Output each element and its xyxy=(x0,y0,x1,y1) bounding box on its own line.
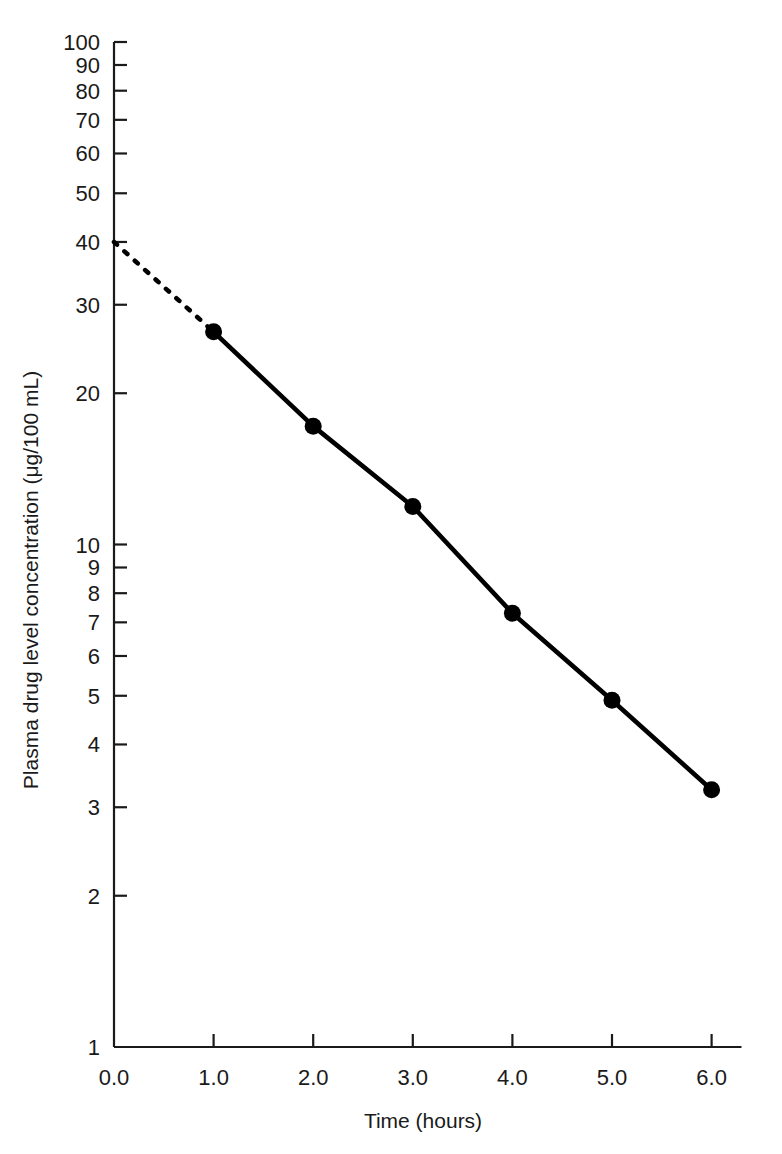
x-tick-label: 4.0 xyxy=(497,1065,528,1090)
x-tick-label: 0.0 xyxy=(99,1065,130,1090)
y-axis-title: Plasma drug level concentration (μg/100 … xyxy=(19,371,42,789)
y-tick-label: 60 xyxy=(76,141,100,166)
y-tick-label: 5 xyxy=(88,684,100,709)
y-tick-label: 6 xyxy=(88,644,100,669)
data-point-marker xyxy=(604,692,621,709)
x-tick-label: 2.0 xyxy=(298,1065,329,1090)
y-tick-label: 3 xyxy=(88,795,100,820)
chart-figure: 100908070605040302010987654321 0.01.02.0… xyxy=(0,0,782,1154)
y-tick-label: 20 xyxy=(76,381,100,406)
data-point-marker xyxy=(205,323,222,340)
x-axis-title: Time (hours) xyxy=(364,1109,482,1132)
x-tick-label: 5.0 xyxy=(597,1065,628,1090)
x-tick-label: 1.0 xyxy=(198,1065,229,1090)
data-point-marker xyxy=(305,418,322,435)
y-tick-label: 4 xyxy=(88,732,100,757)
y-tick-label: 100 xyxy=(63,30,100,55)
y-tick-label: 90 xyxy=(76,53,100,78)
y-tick-label: 8 xyxy=(88,581,100,606)
y-tick-label: 2 xyxy=(88,884,100,909)
y-tick-label: 1 xyxy=(88,1035,100,1060)
y-tick-label: 40 xyxy=(76,230,100,255)
data-point-marker xyxy=(504,605,521,622)
x-tick-label: 3.0 xyxy=(398,1065,429,1090)
y-tick-label: 7 xyxy=(88,610,100,635)
y-tick-label: 10 xyxy=(76,533,100,558)
y-tick-label: 9 xyxy=(88,555,100,580)
x-tick-label: 6.0 xyxy=(696,1065,727,1090)
plot-background xyxy=(0,0,782,1154)
y-tick-label: 70 xyxy=(76,108,100,133)
y-tick-label: 50 xyxy=(76,181,100,206)
data-point-marker xyxy=(703,781,720,798)
y-tick-label: 80 xyxy=(76,79,100,104)
y-tick-label: 30 xyxy=(76,293,100,318)
semilog-plot: 100908070605040302010987654321 0.01.02.0… xyxy=(0,0,782,1154)
data-point-marker xyxy=(404,498,421,515)
